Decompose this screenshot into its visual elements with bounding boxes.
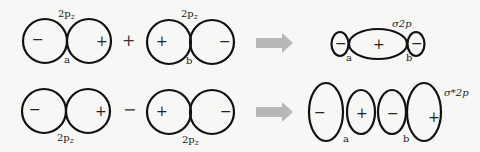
sigma-2p-bonding-orbital: − + − σ2p a b bbox=[332, 18, 425, 63]
sign: − bbox=[387, 105, 399, 121]
lobe-positive bbox=[147, 20, 191, 64]
sign: − bbox=[411, 35, 423, 51]
operator-minus: − bbox=[123, 100, 136, 119]
orbital-label: 2pz bbox=[181, 8, 199, 21]
sign: + bbox=[156, 103, 168, 119]
lobe-negative bbox=[23, 19, 67, 63]
atom-label-b: b bbox=[406, 52, 412, 63]
row-antibonding: − + 2pz − + − 2pz − + − + σ*2p a b bbox=[22, 83, 469, 147]
orbital-label: 2pz bbox=[182, 134, 200, 147]
sign: + bbox=[428, 109, 440, 125]
sign: − bbox=[29, 101, 41, 117]
result-label: σ2p bbox=[392, 18, 412, 29]
diagram-canvas: − + 2pz a + + − 2pz b − + − σ2p a b bbox=[0, 0, 480, 152]
orbital-label: 2pz bbox=[57, 132, 75, 145]
sign: + bbox=[156, 33, 168, 49]
atom-label-a: a bbox=[64, 54, 70, 65]
orbital-label: 2pz bbox=[58, 8, 76, 21]
molecular-orbital-diagram: − + 2pz a + + − 2pz b − + − σ2p a b bbox=[0, 0, 480, 152]
atom-label-b: b bbox=[186, 55, 192, 66]
operator-plus: + bbox=[122, 31, 135, 50]
orbital-2pz-left: − + 2pz a bbox=[23, 8, 111, 65]
sign: + bbox=[96, 33, 108, 49]
sigma-star-2p-antibonding-orbital: − + − + σ*2p a b bbox=[309, 83, 469, 144]
arrow-icon bbox=[256, 33, 293, 53]
orbital-2pz-right: + − 2pz bbox=[147, 90, 234, 147]
orbital-2pz-left: − + 2pz bbox=[22, 89, 110, 145]
arrow-icon bbox=[256, 102, 293, 122]
row-bonding: − + 2pz a + + − 2pz b − + − σ2p a b bbox=[23, 8, 425, 66]
sign: − bbox=[219, 33, 231, 49]
orbital-2pz-right: + − 2pz b bbox=[147, 8, 234, 66]
result-label: σ*2p bbox=[444, 87, 469, 98]
atom-label-a: a bbox=[346, 52, 352, 63]
sign: + bbox=[95, 103, 107, 119]
sign: − bbox=[220, 103, 232, 119]
lobe-positive bbox=[147, 90, 191, 134]
sign: − bbox=[314, 104, 326, 120]
atom-label-a: a bbox=[343, 133, 349, 144]
sign: + bbox=[373, 36, 385, 52]
atom-label-b: b bbox=[403, 133, 409, 144]
sign: + bbox=[356, 105, 368, 121]
sign: − bbox=[32, 31, 44, 47]
sign: − bbox=[335, 35, 347, 51]
